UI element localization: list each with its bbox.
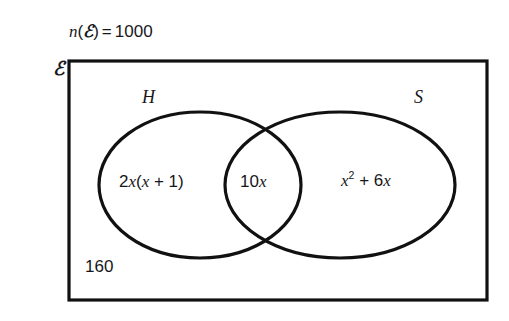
equation-function-name: n bbox=[69, 22, 78, 41]
region-intersection-part: x bbox=[259, 172, 267, 191]
set-h-label: H bbox=[142, 88, 155, 106]
region-h-only-part: 1) bbox=[169, 172, 184, 191]
region-s-only-part: + bbox=[354, 171, 373, 190]
region-s-only-part: x bbox=[383, 171, 391, 190]
region-s-only-part: 6 bbox=[374, 171, 383, 190]
equation-close-paren: ) bbox=[93, 22, 99, 41]
region-h-only-part: + bbox=[149, 172, 168, 191]
venn-diagram-figure: n(ℰ)=1000 ℰ H S 2x(x + 1) 10x x2 + 6x 16… bbox=[0, 0, 509, 321]
region-s-only-part: x bbox=[341, 171, 349, 190]
region-s-only-value: x2 + 6x bbox=[341, 172, 391, 189]
region-h-only-value: 2x(x + 1) bbox=[119, 173, 184, 190]
universe-total-value: 1000 bbox=[115, 22, 153, 41]
region-h-only-part: x bbox=[128, 172, 136, 191]
universe-total-equation: n(ℰ)=1000 bbox=[69, 23, 153, 40]
set-s-label: S bbox=[414, 88, 423, 106]
universe-symbol-icon: ℰ bbox=[83, 21, 93, 41]
venn-diagram-canvas bbox=[0, 0, 509, 321]
universal-set-corner-label-icon: ℰ bbox=[53, 59, 65, 78]
region-intersection-part: 10 bbox=[240, 172, 259, 191]
region-intersection-value: 10x bbox=[240, 173, 266, 190]
equation-operator: = bbox=[99, 22, 115, 41]
region-outside-value: 160 bbox=[85, 258, 113, 275]
